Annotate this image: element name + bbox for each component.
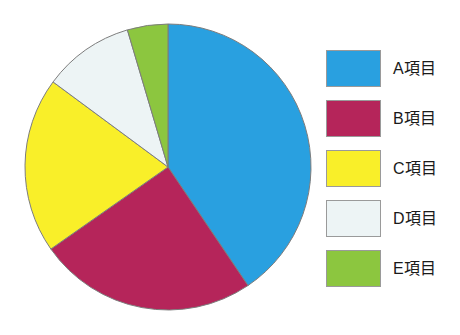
pie-chart-figure: A項目B項目C項目D項目E項目 [0, 0, 460, 335]
pie-slice-group [25, 24, 311, 310]
legend-item-label: B項目 [393, 111, 436, 127]
legend-item-label: D項目 [393, 211, 437, 227]
legend-color-swatch [326, 250, 381, 287]
pie-chart-plot-area [18, 17, 318, 317]
legend-item[interactable]: E項目 [326, 250, 454, 287]
legend-item-label: A項目 [393, 61, 436, 77]
legend-item-label: C項目 [393, 161, 437, 177]
pie-chart-svg [18, 17, 318, 317]
legend-item[interactable]: C項目 [326, 150, 454, 187]
legend-item-label: E項目 [393, 261, 436, 277]
legend-color-swatch [326, 150, 381, 187]
legend-item[interactable]: B項目 [326, 100, 454, 137]
legend-item[interactable]: A項目 [326, 50, 454, 87]
legend-item[interactable]: D項目 [326, 200, 454, 237]
legend-color-swatch [326, 200, 381, 237]
chart-legend: A項目B項目C項目D項目E項目 [326, 50, 454, 287]
legend-color-swatch [326, 50, 381, 87]
legend-color-swatch [326, 100, 381, 137]
